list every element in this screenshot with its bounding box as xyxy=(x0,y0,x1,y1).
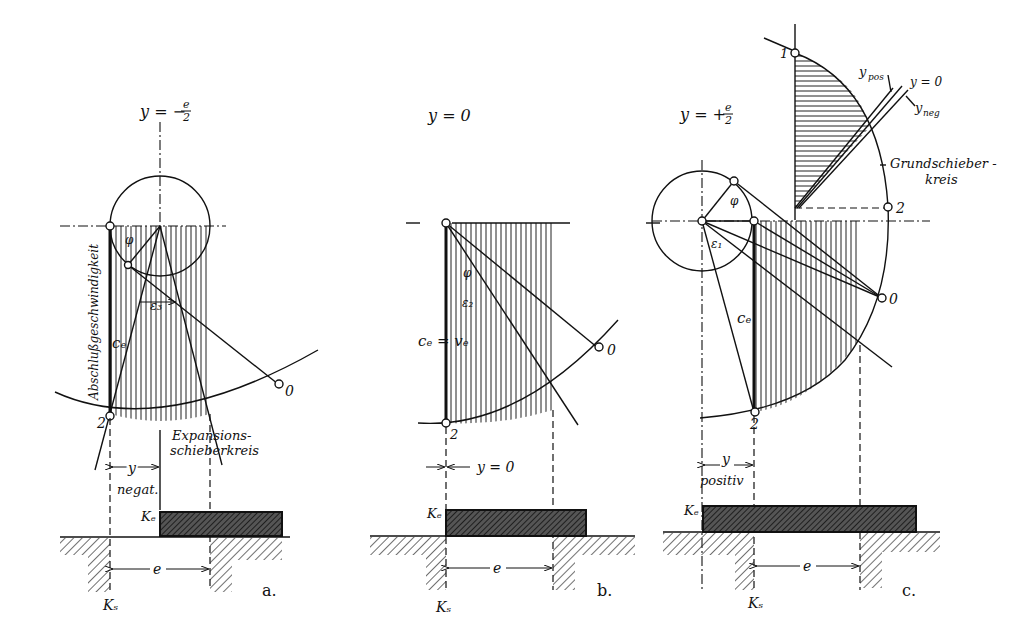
svg-text:Kₛ: Kₛ xyxy=(747,595,763,611)
svg-text:2: 2 xyxy=(449,427,458,442)
svg-text:negat.: negat. xyxy=(117,482,159,497)
svg-text:ε₁: ε₁ xyxy=(711,237,722,251)
svg-text:y: y xyxy=(858,64,867,79)
point-2-upper xyxy=(884,203,892,211)
svg-text:0: 0 xyxy=(889,291,898,307)
panel-b-heading: y = 0 xyxy=(427,106,471,125)
svg-text:2: 2 xyxy=(96,415,106,431)
expansion-valve-plate xyxy=(703,506,916,532)
point-1 xyxy=(791,49,799,57)
svg-text:Kₑ: Kₑ xyxy=(426,506,442,521)
panel-a-caption: a. xyxy=(262,581,277,600)
svg-text:Kₑ: Kₑ xyxy=(683,503,699,518)
svg-text:e: e xyxy=(803,558,811,574)
seat-left xyxy=(60,538,110,592)
svg-text:0: 0 xyxy=(607,342,616,358)
svg-text:kreis: kreis xyxy=(925,172,958,187)
svg-text:y: y xyxy=(127,460,137,476)
svg-text:positiv: positiv xyxy=(700,473,744,488)
svg-text:cₑ = vₑ: cₑ = vₑ xyxy=(418,332,469,350)
seat-left xyxy=(370,537,446,590)
expansion-valve-plate xyxy=(446,510,586,536)
svg-text:y = +: y = + xyxy=(679,105,726,124)
svg-text:neg: neg xyxy=(923,108,940,118)
panel-b-caption: b. xyxy=(597,581,612,600)
svg-text:e: e xyxy=(493,560,501,576)
svg-text:φ: φ xyxy=(463,266,472,280)
vertical-label: Abschlußgeschwindigkeit xyxy=(87,244,101,401)
svg-text:Kₛ: Kₛ xyxy=(435,599,451,615)
svg-text:y = 0: y = 0 xyxy=(476,459,515,475)
svg-text:φ: φ xyxy=(730,194,739,208)
svg-text:cₑ: cₑ xyxy=(112,334,126,352)
svg-text:y = −: y = − xyxy=(139,102,186,121)
svg-text:φ: φ xyxy=(125,233,134,247)
svg-text:2: 2 xyxy=(724,114,732,127)
svg-text:ε₃: ε₃ xyxy=(150,298,162,313)
panel-c-caption: c. xyxy=(902,581,916,600)
point-2 xyxy=(751,408,759,416)
panel-a-heading: y = − e 2 xyxy=(139,98,191,124)
svg-text:2: 2 xyxy=(182,111,190,124)
seat-left xyxy=(663,533,754,590)
svg-text:y: y xyxy=(914,100,923,115)
svg-text:e: e xyxy=(183,98,190,111)
svg-text:Kₛ: Kₛ xyxy=(102,597,118,613)
seat-right xyxy=(860,533,940,588)
diagram-canvas: y = − e 2 0 2 φ ε₃ cₑ Abschlußgeschwi xyxy=(0,0,1031,630)
point-0 xyxy=(275,380,283,388)
point-2 xyxy=(442,419,450,427)
svg-text:y: y xyxy=(721,451,731,467)
panel-a: y = − e 2 0 2 φ ε₃ cₑ Abschlußgeschwi xyxy=(55,98,318,613)
svg-text:Kₑ: Kₑ xyxy=(140,509,156,524)
svg-text:e: e xyxy=(725,101,732,114)
point-0 xyxy=(878,294,886,302)
hatched-area xyxy=(110,226,210,421)
panel-c: y = + e 2 y pos y = 0 y neg Grundschiebe… xyxy=(652,24,997,611)
panel-b: y = 0 0 2 φ ε₂ cₑ = vₑ y = 0 Kₑ e Kₛ b. xyxy=(370,106,660,615)
point-0 xyxy=(595,343,603,351)
svg-text:y = 0: y = 0 xyxy=(909,75,942,89)
seat-right xyxy=(553,537,635,590)
svg-text:Expansions-: Expansions- xyxy=(171,428,251,443)
svg-text:Grundschieber -: Grundschieber - xyxy=(890,156,997,171)
svg-text:2: 2 xyxy=(895,200,905,216)
expansion-valve-plate xyxy=(160,512,282,536)
svg-text:1: 1 xyxy=(780,46,788,61)
point-top xyxy=(106,222,114,230)
svg-text:pos: pos xyxy=(868,72,884,82)
hatched-area xyxy=(446,223,553,423)
svg-text:ε₂: ε₂ xyxy=(462,296,473,310)
panel-c-heading: y = + e 2 xyxy=(679,101,733,127)
svg-text:schieberkreis: schieberkreis xyxy=(170,443,259,458)
svg-text:0: 0 xyxy=(285,383,294,399)
svg-text:cₑ: cₑ xyxy=(737,309,751,327)
svg-text:e: e xyxy=(153,561,161,577)
